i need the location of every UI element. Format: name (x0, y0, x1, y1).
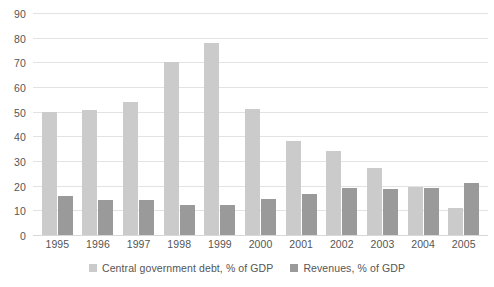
bar-chart: 0102030405060708090 19951996199719981999… (0, 0, 494, 287)
bar[interactable] (82, 110, 97, 235)
bar[interactable] (123, 102, 138, 235)
x-axis-tick-label: 2002 (321, 238, 362, 250)
x-axis-labels: 1995199619971998199920002001200220032004… (33, 238, 488, 250)
bar[interactable] (342, 188, 357, 235)
bar[interactable] (383, 189, 398, 235)
bar[interactable] (464, 183, 479, 235)
bar[interactable] (261, 199, 276, 235)
bar[interactable] (245, 109, 260, 235)
y-axis-tick-label: 50 (14, 107, 26, 119)
legend-swatch-icon (89, 264, 97, 272)
bar[interactable] (424, 188, 439, 235)
x-axis-tick-label: 2004 (403, 238, 444, 250)
x-axis-tick-label: 1998 (159, 238, 200, 250)
y-axis-tick-label: 60 (14, 82, 26, 94)
bar-group (240, 13, 281, 235)
bar[interactable] (220, 205, 235, 235)
y-axis-tick-label: 80 (14, 33, 26, 45)
bar-group (403, 13, 444, 235)
bar-group (443, 13, 484, 235)
x-axis-tick-label: 1995 (37, 238, 78, 250)
bar[interactable] (286, 141, 301, 235)
legend-item[interactable]: Revenues, % of GDP (290, 262, 405, 274)
bar[interactable] (164, 62, 179, 235)
legend-swatch-icon (290, 264, 298, 272)
x-axis-tick-label: 2005 (443, 238, 484, 250)
bar[interactable] (42, 112, 57, 235)
bar[interactable] (302, 194, 317, 235)
gridline: 0 (33, 235, 488, 236)
y-axis-tick-label: 40 (14, 131, 26, 143)
y-axis-tick-label: 70 (14, 57, 26, 69)
plot-area: 0102030405060708090 (33, 13, 488, 235)
y-axis-tick-label: 90 (14, 8, 26, 20)
y-axis-tick-label: 30 (14, 156, 26, 168)
y-axis-tick-label: 0 (20, 230, 26, 242)
bar[interactable] (180, 205, 195, 235)
x-axis-tick-label: 1996 (78, 238, 119, 250)
y-axis-tick-label: 10 (14, 205, 26, 217)
bar-group (200, 13, 241, 235)
bars-layer (33, 13, 488, 235)
bar[interactable] (367, 168, 382, 235)
x-axis-tick-label: 1997 (118, 238, 159, 250)
bar-group (37, 13, 78, 235)
bar[interactable] (204, 43, 219, 235)
bar[interactable] (98, 200, 113, 235)
bar[interactable] (448, 208, 463, 235)
bar-group (362, 13, 403, 235)
x-axis-tick-label: 1999 (200, 238, 241, 250)
bar[interactable] (408, 187, 423, 235)
chart-legend: Central government debt, % of GDPRevenue… (0, 262, 494, 274)
x-axis-tick-label: 2001 (281, 238, 322, 250)
bar-group (281, 13, 322, 235)
legend-item[interactable]: Central government debt, % of GDP (89, 262, 273, 274)
legend-label: Central government debt, % of GDP (102, 262, 273, 274)
bar[interactable] (58, 196, 73, 235)
bar-group (118, 13, 159, 235)
bar[interactable] (139, 200, 154, 235)
bar-group (78, 13, 119, 235)
bar[interactable] (326, 151, 341, 235)
legend-label: Revenues, % of GDP (303, 262, 405, 274)
bar-group (159, 13, 200, 235)
x-axis-tick-label: 2003 (362, 238, 403, 250)
y-axis-tick-label: 20 (14, 181, 26, 193)
x-axis-tick-label: 2000 (240, 238, 281, 250)
bar-group (321, 13, 362, 235)
